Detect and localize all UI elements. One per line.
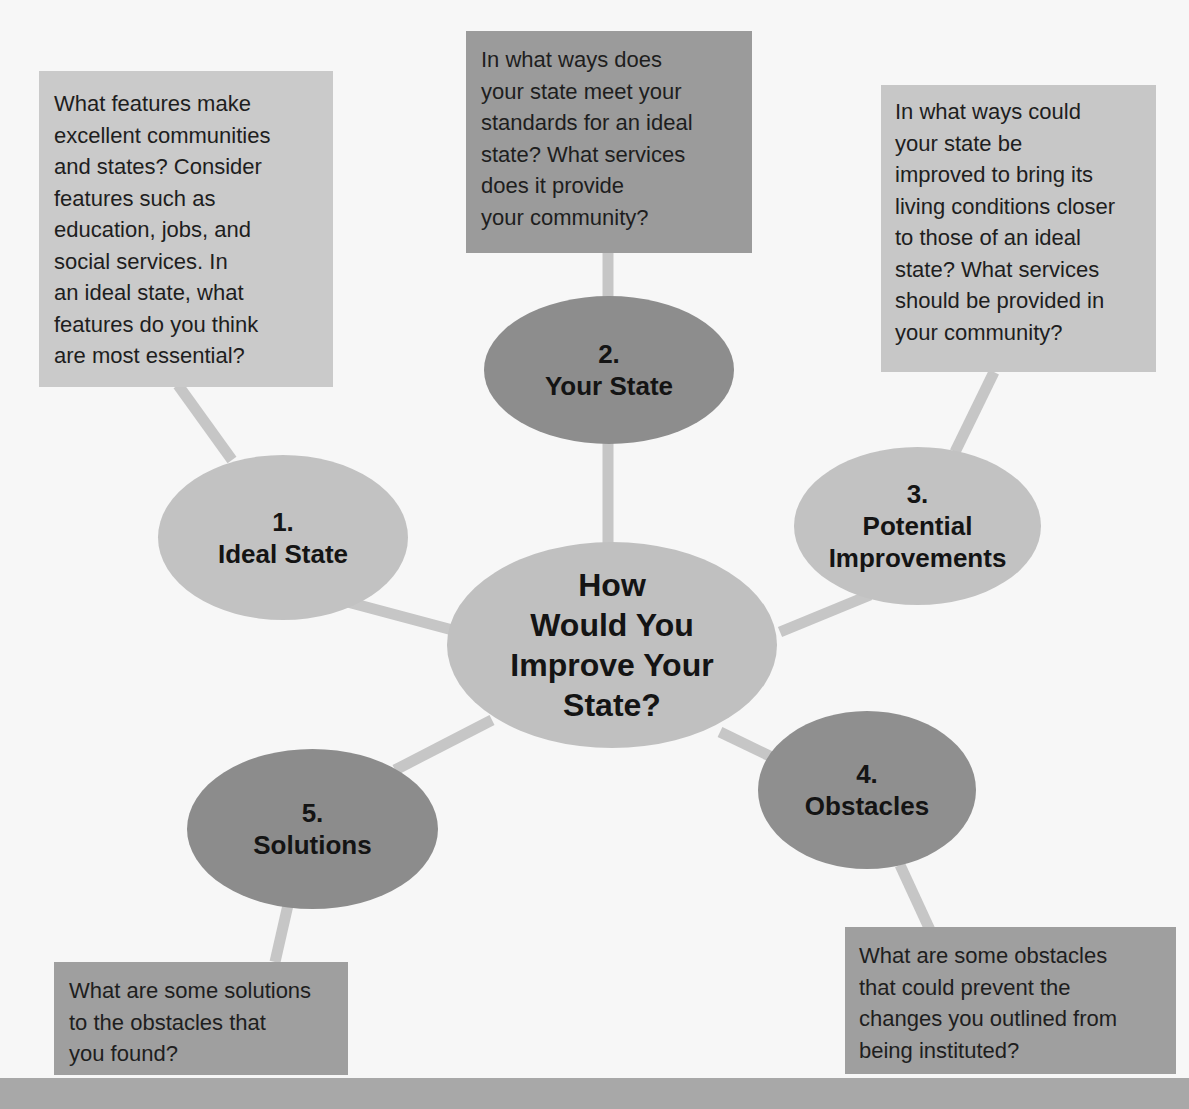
prompt-box-obstacles: What are some obstacles that could preve… [845, 927, 1176, 1074]
connector-1-box [178, 385, 232, 460]
connector-3-box [955, 372, 994, 452]
node-number: 5. [302, 797, 324, 829]
node-solutions: 5. Solutions [187, 749, 438, 909]
node-obstacles: 4. Obstacles [758, 711, 976, 869]
node-ideal-state: 1. Ideal State [158, 455, 408, 620]
node-number: 4. [856, 758, 878, 790]
node-number: 1. [272, 506, 294, 538]
prompt-box-solutions: What are some solutions to the obstacles… [54, 962, 348, 1075]
connector-center-5 [395, 720, 492, 770]
prompt-box-potential-improvements: In what ways could your state be improve… [881, 85, 1156, 372]
node-number: 2. [598, 338, 620, 370]
center-label: How Would You Improve Your State? [510, 565, 713, 725]
node-label: Ideal State [218, 538, 348, 570]
node-label: Your State [545, 370, 673, 402]
prompt-box-your-state: In what ways does your state meet your s… [466, 31, 752, 253]
node-number: 3. [907, 478, 929, 510]
footer-bar [0, 1078, 1189, 1109]
connector-4-box [900, 865, 930, 930]
node-label: Solutions [253, 829, 371, 861]
center-question: How Would You Improve Your State? [447, 542, 777, 748]
connector-center-3 [780, 595, 870, 632]
node-label: Potential Improvements [829, 510, 1007, 574]
node-label: Obstacles [805, 790, 929, 822]
connector-center-1 [340, 600, 460, 632]
node-your-state: 2. Your State [484, 296, 734, 444]
prompt-box-ideal-state: What features make excellent communities… [39, 71, 333, 387]
node-potential-improvements: 3. Potential Improvements [794, 447, 1041, 605]
connector-5-box [275, 905, 288, 962]
